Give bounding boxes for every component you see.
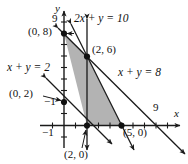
vertex-dot-0-2 — [61, 99, 67, 105]
x-tick-label-9: 9 — [153, 102, 159, 113]
equation-label-2x-plus-y-10: 2x + y = 10 — [74, 13, 128, 25]
point-label-2-6: (2, 6) — [92, 44, 116, 55]
y-tick-label-neg1: −1 — [44, 96, 56, 107]
point-label-0-2: (0, 2) — [9, 88, 33, 99]
equation-label-x-plus-y-8: x + y = 8 — [118, 67, 161, 79]
vertex-dot-0-8 — [61, 30, 67, 36]
line-x-plus-y-8 — [58, 28, 185, 154]
vertex-dot-2-0 — [84, 122, 90, 128]
x-axis-label: x — [174, 108, 179, 119]
y-tick-label-9: 9 — [52, 13, 58, 24]
equation-label-x-plus-y-2: x + y = 2 — [7, 62, 50, 74]
graph-figure: y 9 −1 x 9 −1 2x + y = 10 x + y = 8 x + … — [0, 0, 188, 164]
point-label-2-0: (2, 0) — [64, 149, 88, 160]
leader-line-2-0 — [82, 130, 86, 148]
x-tick-label-neg1: −1 — [42, 127, 54, 138]
vertex-dot-2-6 — [84, 53, 90, 59]
point-label-5-0: (5, 0) — [123, 127, 147, 138]
point-label-0-8: (0, 8) — [28, 26, 52, 37]
